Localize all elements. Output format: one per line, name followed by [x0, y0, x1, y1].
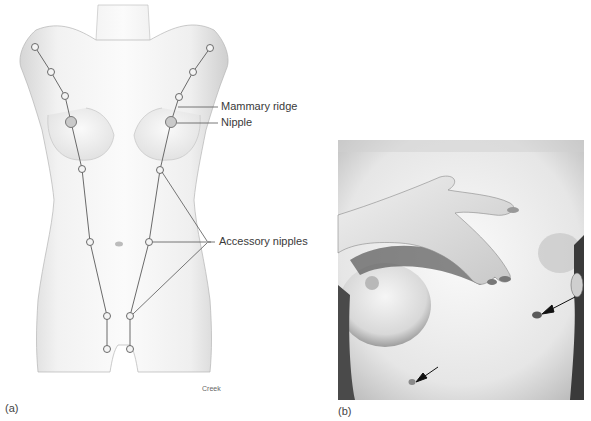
accessory-nipple-site [127, 346, 134, 353]
left-breast [339, 263, 431, 347]
accessory-nipple-upper [532, 312, 542, 319]
torso-shape [20, 25, 228, 372]
panel-b-label: (b) [338, 405, 351, 417]
right-nipple [166, 117, 177, 128]
accessory-nipple-site [176, 94, 183, 101]
accessory-nipple-site [207, 45, 214, 52]
accessory-nipples-label: Accessory nipples [219, 235, 308, 247]
fingernail [487, 279, 497, 285]
accessory-nipple-site [127, 313, 134, 320]
clinical-photograph [330, 135, 591, 421]
navel-shape [115, 242, 123, 247]
accessory-nipple-site [48, 69, 55, 76]
illustration-panel-a: Mammary ridge Nipple Accessory nipples C… [0, 0, 340, 421]
fingernail [507, 207, 519, 213]
fingernail [499, 276, 511, 282]
accessory-nipple-site [62, 93, 69, 100]
accessory-nipple-site [32, 44, 39, 51]
panel-a-label: (a) [5, 402, 18, 414]
accessory-nipple-site [146, 239, 153, 246]
accessory-nipple-site [87, 239, 94, 246]
accessory-nipple-site [190, 69, 197, 76]
photo-panel-b: (b) [330, 135, 591, 421]
accessory-nipple-site [104, 346, 111, 353]
torso-illustration [0, 0, 340, 421]
accessory-nipple-lower [409, 379, 416, 385]
mammary-ridge-label: Mammary ridge [221, 100, 297, 112]
leg-gap [116, 345, 124, 372]
accessory-nipple-site [104, 313, 111, 320]
illustrator-credit: Creek [202, 385, 221, 392]
fingers-right [571, 273, 583, 297]
nipple-label: Nipple [221, 116, 252, 128]
left-nipple [66, 117, 77, 128]
left-nipple-photo [365, 276, 379, 290]
accessory-nipple-site [79, 166, 86, 173]
